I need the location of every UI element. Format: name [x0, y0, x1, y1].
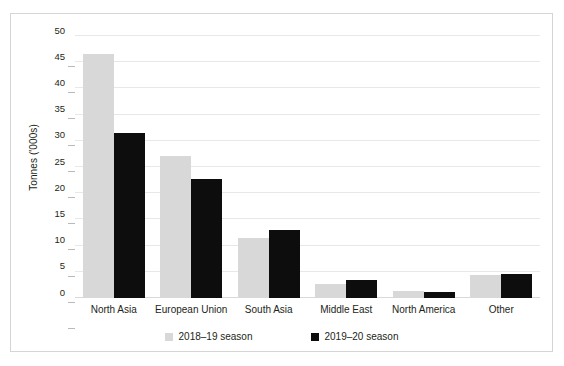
bar [114, 133, 145, 298]
y-axis-tick: 25 [54, 155, 65, 167]
legend-item: 2019–20 season [311, 331, 399, 342]
bar [191, 179, 222, 298]
bar-group [230, 36, 308, 298]
bar-group [385, 36, 463, 298]
y-axis-tick-label: 20 [54, 182, 65, 193]
y-axis-tick-mark [68, 92, 75, 93]
bar-group [308, 36, 386, 298]
y-axis-tick: 10 [54, 234, 65, 246]
y-axis-tick-label: 50 [54, 25, 65, 36]
y-axis-tick-label: 10 [54, 234, 65, 245]
x-axis-category-label: Other [463, 304, 541, 320]
y-axis-tick-label: 30 [54, 129, 65, 140]
y-axis-tick: 30 [54, 129, 65, 141]
y-axis-tick-mark [68, 66, 75, 67]
bar-group [75, 36, 153, 298]
y-axis-tick: 45 [54, 50, 65, 62]
x-axis-category-label: Middle East [308, 304, 386, 320]
bar [315, 284, 346, 298]
bar-group [463, 36, 541, 298]
bar [238, 238, 269, 298]
y-axis-tick-mark [68, 249, 75, 250]
x-axis-category-label: European Union [153, 304, 231, 320]
plot-area [75, 36, 540, 298]
y-axis-tick-mark [68, 171, 75, 172]
y-axis-tick-mark [68, 197, 75, 198]
chart-figure: Tonnes ('000s) 50454035302520151050 Nort… [10, 13, 553, 352]
y-axis-title-text: Tonnes ('000s) [28, 124, 39, 191]
y-axis-tick-mark [68, 328, 75, 329]
legend-item: 2018–19 season [165, 331, 253, 342]
legend-label: 2018–19 season [179, 331, 253, 342]
x-axis-category-label: North America [385, 304, 463, 320]
x-axis-category-label: North Asia [75, 304, 153, 320]
bar [83, 54, 114, 298]
y-axis-tick-label: 25 [54, 156, 65, 167]
bar-group [153, 36, 231, 298]
y-axis-tick: 40 [54, 76, 65, 88]
y-axis-tick-label: 40 [54, 77, 65, 88]
x-axis-category-label: South Asia [230, 304, 308, 320]
legend-swatch-icon [311, 333, 319, 341]
y-axis-tick: 50 [54, 24, 65, 36]
chart-legend: 2018–19 season2019–20 season [11, 331, 552, 342]
y-axis-tick: 20 [54, 181, 65, 193]
bar [393, 291, 424, 298]
y-axis-tick-label: 15 [54, 208, 65, 219]
bar [501, 274, 532, 298]
y-axis-tick-mark [68, 302, 75, 303]
y-axis-tick: 15 [54, 207, 65, 219]
bar [424, 292, 455, 298]
y-axis-tick-label: 5 [60, 260, 65, 271]
y-axis-tick-mark [68, 223, 75, 224]
bar-groups [75, 36, 540, 298]
bar [470, 275, 501, 298]
y-axis-tick: 35 [54, 103, 65, 115]
y-axis-tick-labels: 50454035302520151050 [42, 36, 65, 298]
bar [346, 280, 377, 298]
legend-label: 2019–20 season [325, 331, 399, 342]
bar [269, 230, 300, 298]
y-axis-tick-label: 35 [54, 103, 65, 114]
y-axis-tick-label: 45 [54, 51, 65, 62]
y-axis-tick-label: 0 [60, 287, 65, 298]
legend-swatch-icon [165, 333, 173, 341]
y-axis-tick-mark [68, 118, 75, 119]
y-axis-tick-mark [68, 145, 75, 146]
y-axis-tick: 0 [60, 286, 65, 298]
bar [160, 156, 191, 298]
y-axis-title: Tonnes ('000s) [24, 14, 42, 301]
y-axis-tick: 5 [60, 260, 65, 272]
y-axis-tick-mark [68, 276, 75, 277]
x-axis-category-labels: North AsiaEuropean UnionSouth AsiaMiddle… [75, 304, 540, 320]
